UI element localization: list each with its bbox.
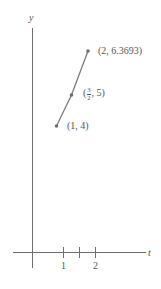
point-2-6-3693 (86, 49, 90, 53)
point-label-2-6-3693: (2, 6.3693) (98, 46, 142, 56)
point-label-1-4: (1, 4) (67, 121, 89, 131)
y-axis-label: y (29, 13, 33, 23)
point-label-open: ( (83, 87, 86, 98)
point-1-4 (55, 124, 59, 128)
point-label-3-2-5: (32, 5) (83, 87, 105, 101)
fraction-3-2: 32 (87, 87, 91, 101)
tick-label-1: 1 (61, 261, 66, 271)
chart-canvas (0, 0, 161, 289)
tick-label-2: 2 (93, 261, 98, 271)
point-1-5-5 (70, 93, 74, 97)
point-label-rest: , 5) (92, 87, 105, 98)
fraction-denominator: 2 (87, 95, 90, 102)
t-axis-label: t (148, 248, 151, 258)
